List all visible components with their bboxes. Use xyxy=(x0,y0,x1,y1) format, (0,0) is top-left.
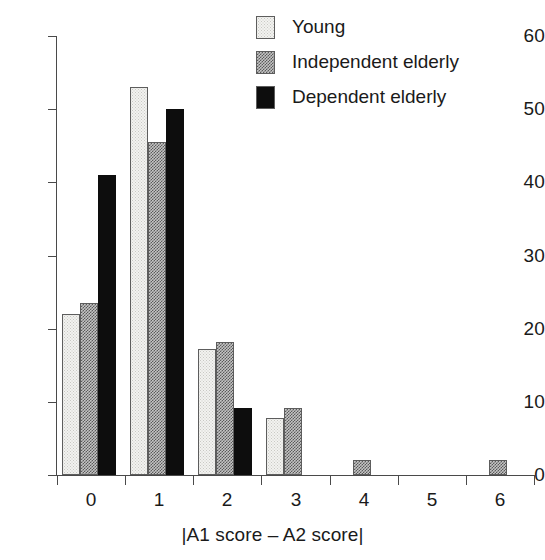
legend-swatch-young-icon xyxy=(256,16,275,39)
x-tick-label-1: 1 xyxy=(139,489,179,511)
x-tick-label-2: 2 xyxy=(207,489,247,511)
legend-swatch-dependent-elderly-icon xyxy=(256,86,275,109)
bar-dependent-elderly-2 xyxy=(234,408,252,475)
bar-dependent-elderly-0 xyxy=(98,175,116,475)
bar-independent-elderly-0 xyxy=(80,303,98,475)
bar-chart: 0102030405060 0123456 |A1 score – A2 sco… xyxy=(0,0,545,560)
x-tick-0 xyxy=(57,476,58,485)
bar-independent-elderly-6 xyxy=(489,460,507,475)
x-tick-1 xyxy=(125,476,126,485)
x-axis-title: |A1 score – A2 score| xyxy=(0,524,545,546)
y-tick-20 xyxy=(48,329,56,330)
x-tick-2 xyxy=(193,476,194,485)
x-tick-4 xyxy=(330,476,331,485)
legend-item-dependent-elderly: Dependent elderly xyxy=(256,82,536,117)
y-tick-30 xyxy=(48,256,56,257)
legend-swatch-independent-elderly-icon xyxy=(256,51,275,74)
legend-item-young: Young xyxy=(256,12,536,47)
bar-young-2 xyxy=(198,349,216,475)
y-tick-50 xyxy=(48,109,56,110)
legend: Young Independent elderly Dependent elde… xyxy=(256,12,536,117)
x-tick-3 xyxy=(261,476,262,485)
y-tick-0 xyxy=(48,475,56,476)
bar-independent-elderly-3 xyxy=(284,408,302,475)
bar-dependent-elderly-1 xyxy=(166,109,184,475)
x-tick-label-4: 4 xyxy=(344,489,384,511)
x-tick-6 xyxy=(466,476,467,485)
x-tick-label-3: 3 xyxy=(276,489,316,511)
legend-label-independent-elderly: Independent elderly xyxy=(292,49,459,75)
bar-independent-elderly-4 xyxy=(353,460,371,475)
legend-item-independent-elderly: Independent elderly xyxy=(256,47,536,82)
bar-young-3 xyxy=(266,418,284,475)
x-tick-label-6: 6 xyxy=(480,489,520,511)
x-tick-label-0: 0 xyxy=(71,489,111,511)
legend-label-dependent-elderly: Dependent elderly xyxy=(292,84,446,110)
x-tick-5 xyxy=(398,476,399,485)
y-tick-60 xyxy=(48,36,56,37)
x-tick-7 xyxy=(534,476,535,485)
bar-young-0 xyxy=(62,314,80,475)
bar-independent-elderly-2 xyxy=(216,342,234,475)
legend-label-young: Young xyxy=(292,14,345,40)
x-axis-line xyxy=(56,475,535,476)
y-tick-40 xyxy=(48,182,56,183)
bar-young-1 xyxy=(130,87,148,475)
bar-independent-elderly-1 xyxy=(148,142,166,475)
x-tick-label-5: 5 xyxy=(412,489,452,511)
y-tick-10 xyxy=(48,402,56,403)
